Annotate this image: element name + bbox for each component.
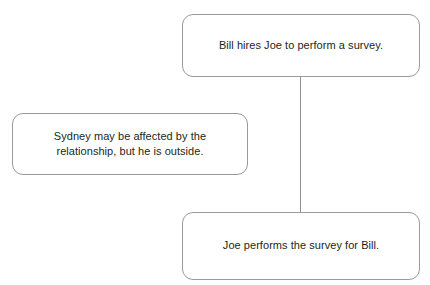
node-label: Sydney may be affected by the relationsh… <box>44 129 216 160</box>
connector-top-to-bottom <box>300 77 301 212</box>
node-bill-hires-joe[interactable]: Bill hires Joe to perform a survey. <box>182 14 420 77</box>
node-label: Bill hires Joe to perform a survey. <box>209 38 393 54</box>
node-sydney-affected[interactable]: Sydney may be affected by the relationsh… <box>12 113 248 175</box>
node-label: Joe performs the survey for Bill. <box>213 238 389 254</box>
diagram-canvas: Bill hires Joe to perform a survey. Sydn… <box>0 0 430 285</box>
node-joe-performs-survey[interactable]: Joe performs the survey for Bill. <box>182 212 420 280</box>
